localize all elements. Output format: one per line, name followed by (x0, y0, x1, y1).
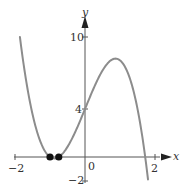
y-tick-label-neg2: −2 (68, 174, 84, 187)
x-axis-label: x (173, 150, 180, 163)
marked-point (55, 153, 62, 160)
chart: −2 0 2 10 4 −2 y x (0, 0, 186, 191)
function-curve (20, 37, 148, 179)
x-tick-label-2: 2 (151, 162, 158, 175)
marked-point (46, 153, 53, 160)
x-tick-label-neg2: −2 (8, 162, 24, 175)
y-tick-label-10: 10 (70, 31, 84, 44)
x-tick-label-0: 0 (88, 160, 95, 173)
x-axis-arrow-icon (161, 154, 172, 161)
y-tick-label-4: 4 (75, 103, 82, 116)
y-axis-label: y (81, 6, 89, 19)
